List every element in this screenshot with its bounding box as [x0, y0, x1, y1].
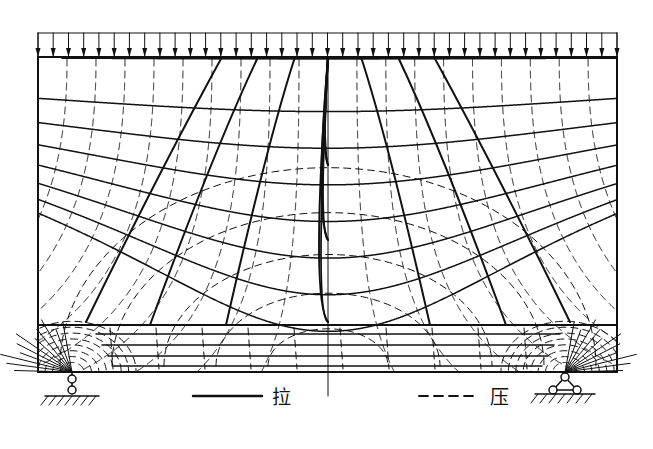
- support-radial-arc: [39, 333, 121, 372]
- load-arrow-head: [325, 48, 330, 57]
- load-arrow-head: [142, 48, 147, 57]
- right-support: [531, 372, 595, 403]
- right-support-pin-right: [573, 386, 581, 394]
- left-support-hatch: [57, 396, 64, 405]
- load-arrow-head: [371, 48, 376, 57]
- load-arrow-head: [51, 48, 56, 57]
- compression-line: [38, 59, 96, 274]
- right-support-hatch: [567, 394, 574, 403]
- tension-fan-line: [150, 57, 258, 325]
- load-arrow-head: [264, 48, 269, 57]
- compression-line: [588, 59, 617, 220]
- support-radial-arc: [531, 345, 600, 372]
- load-arrow-head: [173, 48, 178, 57]
- load-arrow-head: [188, 48, 193, 57]
- load-arrow-head: [401, 48, 406, 57]
- tension-arc: [38, 199, 618, 295]
- tension-trajectories: [38, 58, 618, 331]
- left-support-pin-lower: [68, 386, 76, 394]
- load-arrow-head: [493, 48, 498, 57]
- load-arrow-head: [279, 48, 284, 57]
- load-arrow-head: [249, 48, 254, 57]
- compression-line: [38, 59, 67, 220]
- legend-compression-label: 压: [490, 386, 509, 408]
- left-support-hatch: [73, 396, 80, 405]
- support-radial-line: [565, 354, 636, 372]
- load-arrow-head: [599, 48, 604, 57]
- load-arrow-head: [96, 48, 101, 57]
- tension-arc: [38, 98, 617, 111]
- right-support-pin-left: [549, 386, 557, 394]
- load-arrow-head: [508, 48, 513, 57]
- load-arrow-head: [340, 48, 345, 57]
- tension-arc: [38, 183, 617, 258]
- left-support-hatch: [49, 396, 56, 405]
- legend-tension-label: 拉: [272, 386, 291, 408]
- load-arrow-head: [310, 48, 315, 57]
- load-arrow-head: [432, 48, 437, 57]
- load-arrow-head: [295, 48, 300, 57]
- load-arrow-head: [477, 48, 482, 57]
- load-arrow-head: [356, 48, 361, 57]
- tension-fan-line: [398, 57, 506, 325]
- left-support: [41, 372, 99, 405]
- load-arrow-head: [462, 48, 467, 57]
- right-support-hatch: [585, 394, 592, 403]
- right-support-hatch: [540, 394, 547, 403]
- load-arrow-head: [218, 48, 223, 57]
- legend: 拉压: [193, 386, 509, 408]
- compression-line: [38, 59, 183, 366]
- right-support-pin-apex: [561, 373, 569, 381]
- load-arrow-head: [554, 48, 559, 57]
- right-support-hatch: [549, 394, 556, 403]
- load-arrow-head: [157, 48, 162, 57]
- load-arrow-head: [203, 48, 208, 57]
- load-arrow-head: [447, 48, 452, 57]
- load-arrow-head: [66, 48, 71, 57]
- load-arrow-head: [523, 48, 528, 57]
- tension-arc: [38, 123, 617, 149]
- support-radial-line: [1, 354, 72, 372]
- load-arrow-head: [538, 48, 543, 57]
- load-arrow-head: [81, 48, 86, 57]
- left-support-hatch: [89, 396, 96, 405]
- left-support-hatch: [65, 396, 72, 405]
- distributed-load: [36, 33, 620, 57]
- right-support-hatch: [558, 394, 565, 403]
- compression-line: [38, 59, 154, 341]
- compression-line: [559, 59, 617, 273]
- support-radial-lines: [1, 320, 637, 372]
- support-radial-arc: [38, 345, 106, 372]
- stress-trajectory-figure: 拉压: [0, 0, 653, 449]
- load-arrow-head: [584, 48, 589, 57]
- load-arrow-head: [127, 48, 132, 57]
- left-support-pin-upper: [68, 375, 76, 383]
- right-support-hatch: [576, 394, 583, 403]
- load-arrow-head: [386, 48, 391, 57]
- left-support-hatch: [41, 396, 48, 405]
- load-arrow-head: [234, 48, 239, 57]
- load-arrow-head: [416, 48, 421, 57]
- load-arrow-head: [112, 48, 117, 57]
- right-support-hatch: [531, 394, 538, 403]
- figure-canvas: 拉压: [0, 0, 653, 449]
- load-arrow-head: [569, 48, 574, 57]
- left-support-hatch: [81, 396, 88, 405]
